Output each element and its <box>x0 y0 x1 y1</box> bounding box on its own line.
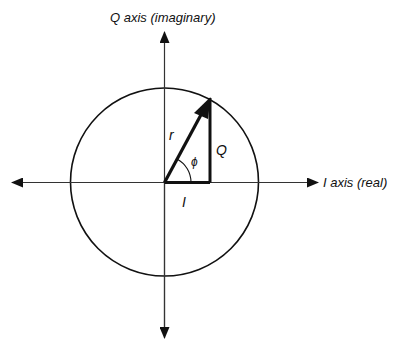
i-component-label: I <box>182 194 186 210</box>
q-axis-label: Q axis (imaginary) <box>110 10 215 25</box>
iq-diagram: Q axis (imaginary) I axis (real) r ϕ Q I <box>0 0 395 347</box>
i-axis-label: I axis (real) <box>323 175 387 190</box>
vector-label: r <box>169 127 175 143</box>
angle-arc <box>177 159 191 183</box>
phasor-arrowhead <box>194 97 211 119</box>
angle-label: ϕ <box>191 155 198 169</box>
q-component-label: Q <box>216 142 227 158</box>
phasor-vector <box>165 111 204 183</box>
